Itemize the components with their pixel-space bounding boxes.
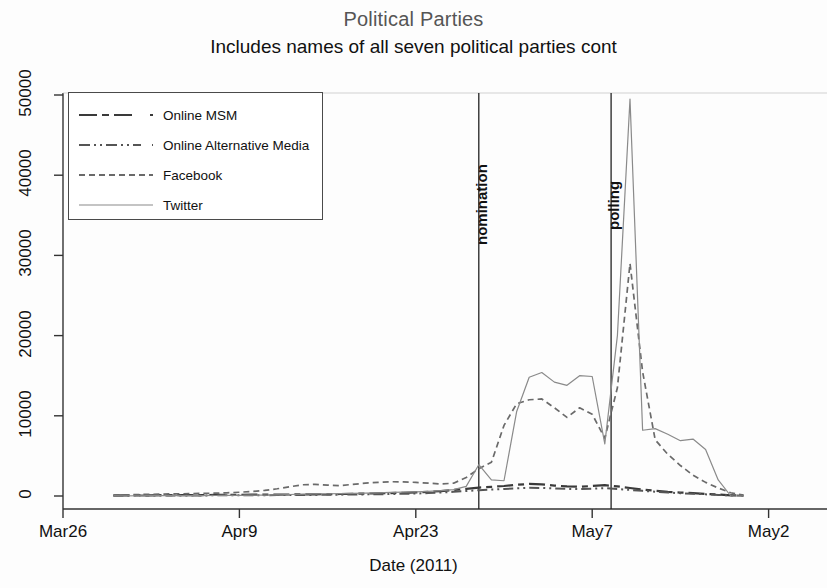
y-tick-label: 50000	[0, 83, 52, 103]
legend-key-line-0	[77, 109, 155, 121]
legend-label-0: Online MSM	[163, 108, 237, 123]
x-tick-label: Apr9	[179, 522, 299, 542]
legend-key-line-2	[77, 169, 155, 181]
legend-item-2[interactable]: Facebook	[77, 163, 222, 187]
legend-item-3[interactable]: Twitter	[77, 193, 203, 217]
y-tick-label: 10000	[0, 404, 52, 424]
legend-label-3: Twitter	[163, 198, 203, 213]
legend-label-1: Online Alternative Media	[163, 138, 309, 153]
legend-label-2: Facebook	[163, 168, 222, 183]
x-tick-label: Mar26	[3, 522, 123, 542]
legend-key-line-3	[77, 199, 155, 211]
chart-subtitle: Includes names of all seven political pa…	[0, 36, 827, 58]
plot-area	[0, 0, 827, 588]
x-axis-title: Date (2011)	[0, 556, 827, 576]
legend-item-1[interactable]: Online Alternative Media	[77, 133, 309, 157]
annotation-label-nomination: nomination	[473, 164, 490, 245]
legend-key-line-1	[77, 139, 155, 151]
y-tick-label: 40000	[0, 163, 52, 183]
x-tick-label: May2	[709, 522, 827, 542]
annotation-label-polling: polling	[605, 181, 622, 230]
chart-container: Political Parties Includes names of all …	[0, 0, 827, 588]
x-tick-label: Apr23	[356, 522, 476, 542]
y-tick-label: 30000	[0, 243, 52, 263]
series-line-facebook	[113, 263, 743, 495]
y-tick-label: 20000	[0, 324, 52, 344]
chart-title: Political Parties	[0, 8, 827, 31]
x-tick-label: May7	[532, 522, 652, 542]
legend: Online MSM Online Alternative Media Face…	[68, 92, 323, 220]
y-tick-label: 0	[0, 484, 52, 504]
legend-item-0[interactable]: Online MSM	[77, 103, 237, 127]
